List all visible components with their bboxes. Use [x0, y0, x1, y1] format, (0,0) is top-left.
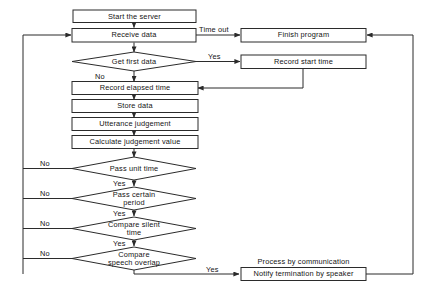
edge-label-no-pass-unit-time: No	[40, 159, 50, 168]
node-notify-termination-by-speaker: Notify termination by speaker	[241, 268, 366, 281]
node-label-compare-speech-overlap-line2: speech overlap	[108, 258, 160, 267]
edge-label-yes-compare-speech-overlap: Yes	[206, 265, 219, 274]
node-label-calculate-judgement-value: Calculate judgement value	[90, 137, 181, 146]
node-label-get-first-data: Get first data	[112, 57, 157, 66]
edge-overlap-yes-to-notify	[134, 270, 239, 274]
node-label-pass-unit-time: Pass unit time	[110, 164, 159, 173]
node-label-finish-program: Finish program	[278, 30, 329, 39]
edge-label-yes-get-first-data: Yes	[208, 52, 221, 61]
edge-label-yes-pass-certain-period: Yes	[113, 209, 126, 218]
edge-label-no-pass-certain-period: No	[40, 189, 50, 198]
node-label-receive-data: Receive data	[112, 30, 158, 39]
edge-label-no-get-first-data: No	[95, 72, 105, 81]
node-label-record-start-time: Record start time	[274, 57, 333, 66]
node-utterance-judgement: Utterance judgement	[72, 118, 198, 131]
edge-label-no-compare-silent-time: No	[40, 219, 50, 228]
node-receive-data: Receive data	[72, 29, 196, 43]
node-store-data: Store data	[72, 100, 198, 113]
node-record-start-time: Record start time	[241, 55, 366, 69]
edge-left-return-bus	[23, 35, 71, 274]
edge-label-no-compare-speech-overlap: No	[40, 249, 50, 258]
node-finish-program: Finish program	[241, 29, 366, 43]
edge-label-time-out: Time out	[199, 25, 229, 34]
edge-recordstart-to-elapsed	[198, 69, 303, 89]
node-start-the-server: Start the server	[73, 10, 196, 23]
node-label-start-the-server: Start the server	[108, 12, 161, 21]
node-get-first-data: Get first data	[72, 52, 196, 71]
edge-label-yes-compare-silent-time: Yes	[113, 239, 126, 248]
caption-process-by-communication: Process by communication	[258, 257, 350, 266]
node-label-record-elapsed-time: Record elapsed time	[100, 83, 171, 92]
node-compare-speech-overlap: Compare speech overlap	[72, 247, 196, 270]
node-pass-unit-time: Pass unit time	[72, 157, 196, 180]
node-pass-certain-period: Pass certain period	[72, 187, 196, 210]
flowchart-canvas: Start the server Receive data Finish pro…	[0, 0, 433, 293]
node-calculate-judgement-value: Calculate judgement value	[72, 136, 198, 149]
node-label-store-data: Store data	[117, 101, 153, 110]
node-label-notify-termination-by-speaker: Notify termination by speaker	[253, 269, 353, 278]
node-record-elapsed-time: Record elapsed time	[72, 82, 198, 95]
flowchart-diagram: Start the server Receive data Finish pro…	[0, 0, 433, 293]
node-label-compare-silent-time-line2: time	[127, 228, 142, 237]
node-compare-silent-time: Compare silent time	[72, 217, 196, 240]
node-label-pass-certain-period-line2: period	[123, 198, 144, 207]
edge-label-yes-pass-unit-time: Yes	[113, 179, 126, 188]
node-label-utterance-judgement: Utterance judgement	[99, 119, 170, 128]
edge-right-return-bus	[366, 35, 413, 274]
